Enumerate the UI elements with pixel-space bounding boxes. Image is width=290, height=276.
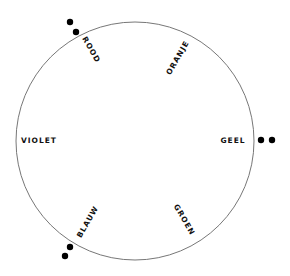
color-wheel-diagram: ROODORANJEGEELGROENBLAUWVIOLET <box>0 0 290 276</box>
label-rood: ROOD <box>80 35 102 64</box>
label-violet: VIOLET <box>21 136 57 145</box>
label-geel: GEEL <box>220 136 245 145</box>
blauw-dot-1-icon <box>67 244 73 250</box>
label-blauw: BLAUW <box>75 204 101 239</box>
color-labels: ROODORANJEGEELGROENBLAUWVIOLET <box>21 35 246 239</box>
geel-dot-2-icon <box>269 137 275 143</box>
blauw-dot-2-icon <box>62 253 68 259</box>
label-oranje: ORANJE <box>164 39 191 77</box>
color-wheel-canvas: ROODORANJEGEELGROENBLAUWVIOLET <box>0 0 290 276</box>
label-groen: GROEN <box>172 202 197 237</box>
rood-dot-1-icon <box>67 19 73 25</box>
geel-dot-1-icon <box>258 137 264 143</box>
rood-dot-2-icon <box>73 29 79 35</box>
